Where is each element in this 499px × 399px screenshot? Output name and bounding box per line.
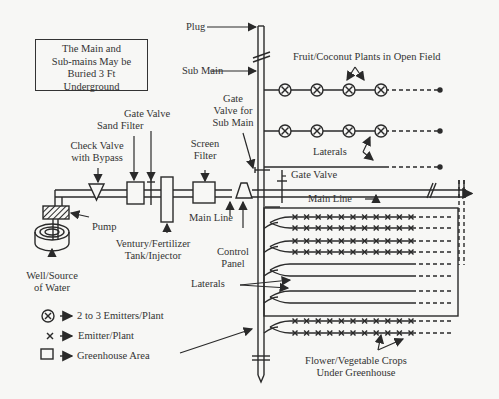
lateral-branch — [270, 264, 290, 270]
legend-emitter-label: Emitter/Plant — [78, 330, 134, 342]
greenhouse-laterals — [264, 215, 452, 336]
label-line: Panel — [211, 258, 255, 270]
note-line: Underground — [36, 81, 147, 94]
legend-icons — [41, 310, 72, 359]
check-valve-label: Check Valve with Bypass — [62, 140, 132, 164]
label-line: Valve for — [205, 105, 261, 117]
burial-note-box: The Main and Sub-mains May be Buried 3 F… — [35, 39, 148, 91]
gate-valve-sub-main-label: Gate Valve for Sub Main — [205, 93, 261, 129]
lateral-branch — [270, 241, 290, 247]
lateral-branch — [270, 223, 290, 229]
label-line: Screen — [185, 138, 225, 150]
fruit-plants-label: Fruit/Coconut Plants in Open Field — [293, 51, 441, 63]
lateral-branch — [270, 247, 290, 253]
note-line: The Main and — [36, 43, 147, 56]
screen-filter-label: Screen Filter — [185, 138, 225, 162]
label-line: with Bypass — [62, 152, 132, 164]
note-line: Sub-mains May be — [36, 56, 147, 69]
label-line: Well/Source — [22, 270, 82, 282]
label-line: Flower/Vegetable Crops — [300, 355, 412, 367]
sub-main-label: Sub Main — [182, 65, 223, 77]
plug-label: Plug — [186, 21, 205, 33]
legend-greenhouse-label: Greenhouse Area — [77, 350, 150, 362]
label-line: Check Valve — [62, 140, 132, 152]
sand-filter-label: Sand Filter — [97, 120, 143, 132]
laterals-bottom-label: Laterals — [191, 278, 225, 290]
lateral-branch — [270, 270, 290, 276]
sand-filter — [127, 182, 144, 204]
lateral-branch — [270, 327, 290, 333]
sub-main-pipe — [252, 26, 270, 382]
label-line: Sub Main — [205, 117, 261, 129]
lateral-branch — [270, 291, 290, 297]
control-panel-label: Control Panel — [211, 246, 255, 270]
label-line: Gate — [205, 93, 261, 105]
lateral-branch — [270, 321, 290, 327]
main-line-right-label: Main Line — [308, 193, 352, 205]
open-field-laterals — [264, 84, 442, 169]
venturi-label: Ventury/Fertilizer Tank/Injector — [108, 238, 198, 262]
pump — [43, 206, 69, 219]
note-line: Buried 3 Ft — [36, 68, 147, 81]
label-line: Ventury/Fertilizer — [108, 238, 198, 250]
gate-valve-label: Gate Valve — [124, 108, 170, 120]
crops-label: Flower/Vegetable Crops Under Greenhouse — [300, 355, 412, 379]
venturi-tank — [161, 177, 173, 222]
screen-filter — [193, 182, 215, 203]
label-line: Under Greenhouse — [300, 367, 412, 379]
right-sub-main — [459, 180, 464, 265]
gate-valve-right-label: Gate Valve — [291, 169, 337, 181]
laterals-top-label: Laterals — [313, 146, 347, 158]
label-line: of Water — [22, 282, 82, 294]
label-line: Tank/Injector — [108, 250, 198, 262]
lateral-branch — [270, 297, 290, 303]
well — [35, 219, 69, 251]
label-line: Control — [211, 246, 255, 258]
main-line-left-label: Main Line — [189, 212, 233, 224]
label-line: Filter — [185, 150, 225, 162]
lateral-end-plug — [438, 129, 442, 133]
greenhouse-area — [264, 208, 458, 316]
pump-label: Pump — [92, 221, 117, 233]
legend-emitters-plant-label: 2 to 3 Emitters/Plant — [77, 310, 164, 322]
lateral-end-plug — [438, 165, 442, 169]
gate-valve-main — [147, 180, 155, 205]
lateral-branch — [270, 217, 290, 223]
lateral-end-plug — [438, 88, 442, 92]
control-panel — [236, 183, 252, 198]
well-label: Well/Source of Water — [22, 270, 82, 294]
